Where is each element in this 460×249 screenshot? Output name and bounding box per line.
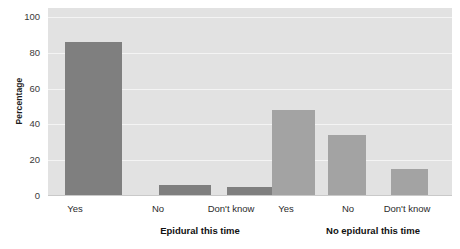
bar-noepidural-no <box>328 135 366 196</box>
y-axis-tick-labels: 0 20 40 60 80 100 <box>0 0 44 249</box>
y-tick-label-60: 60 <box>0 84 40 94</box>
y-tick-label-40: 40 <box>0 119 40 129</box>
x-label-noepidural-dontknow: Don't know <box>369 203 445 214</box>
group-label-epidural-this-time: Epidural this time <box>115 225 285 236</box>
x-label-epidural-no: No <box>128 203 188 214</box>
x-label-noepidural-yes: Yes <box>256 203 316 214</box>
y-tick-label-80: 80 <box>0 48 40 58</box>
bar-noepidural-yes <box>272 110 315 196</box>
y-tick-label-20: 20 <box>0 155 40 165</box>
y-tick-label-0: 0 <box>0 191 40 201</box>
gridline-100 <box>48 17 452 18</box>
bar-noepidural-dontknow <box>391 169 428 196</box>
plot-area <box>48 8 452 196</box>
group-label-no-epidural-this-time: No epidural this time <box>288 225 458 236</box>
bar-epidural-yes <box>65 42 122 196</box>
x-axis-line <box>48 195 452 196</box>
y-tick-label-100: 100 <box>0 12 40 22</box>
x-label-epidural-yes: Yes <box>45 203 105 214</box>
bar-chart: Percentage 0 20 40 60 80 100 Yes No Don'… <box>0 0 460 249</box>
